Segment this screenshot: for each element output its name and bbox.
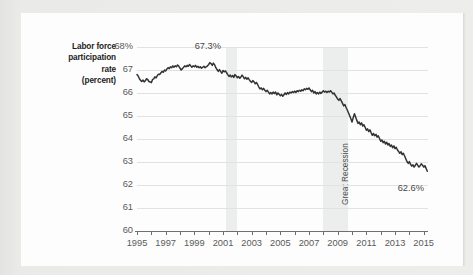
x-tick-2011 — [366, 231, 367, 235]
x-tick-2004 — [266, 231, 267, 235]
y-tick-label-61: 61 — [93, 202, 133, 212]
x-tick-2001 — [223, 231, 224, 235]
x-tick-2007 — [309, 231, 310, 235]
x-tick-2009 — [338, 231, 339, 235]
series-layer — [137, 47, 428, 231]
x-tick-2013 — [395, 231, 396, 235]
y-tick-label-68: 68% — [93, 41, 133, 51]
y-tick-label-60: 60 — [93, 225, 133, 235]
chart-figure: Labor force participation rate (percent)… — [0, 0, 473, 275]
x-tick-1997 — [166, 231, 167, 235]
y-tick-label-65: 65 — [93, 110, 133, 120]
y-axis-title-line-4: (percent) — [30, 75, 116, 86]
x-tick-label-2015: 2015 — [402, 238, 446, 248]
x-tick-1996 — [151, 231, 152, 235]
x-tick-1995 — [137, 231, 138, 235]
y-tick-label-67: 67 — [93, 64, 133, 74]
x-tick-2010 — [352, 231, 353, 235]
data-label-peak: 67.3% — [195, 41, 221, 51]
y-tick-label-62: 62 — [93, 179, 133, 189]
x-tick-2014 — [409, 231, 410, 235]
y-axis-title-line-2: participation — [30, 52, 116, 63]
x-tick-2003 — [252, 231, 253, 235]
y-tick-label-64: 64 — [93, 133, 133, 143]
x-tick-2006 — [295, 231, 296, 235]
y-tick-label-66: 66 — [93, 87, 133, 97]
x-tick-2015 — [424, 231, 425, 235]
x-tick-1999 — [194, 231, 195, 235]
x-tick-2005 — [280, 231, 281, 235]
x-tick-2012 — [381, 231, 382, 235]
series-line-labor-force-participation-rate — [137, 63, 427, 172]
x-tick-1998 — [180, 231, 181, 235]
data-label-latest: 62.6% — [398, 183, 424, 193]
y-tick-label-63: 63 — [93, 156, 133, 166]
x-tick-2008 — [323, 231, 324, 235]
x-axis-line — [135, 231, 428, 232]
x-tick-2002 — [237, 231, 238, 235]
figure-page: Labor force participation rate (percent)… — [0, 0, 473, 275]
plot-area: Great Recession68%6766656463626160199519… — [137, 47, 428, 231]
x-tick-2000 — [209, 231, 210, 235]
